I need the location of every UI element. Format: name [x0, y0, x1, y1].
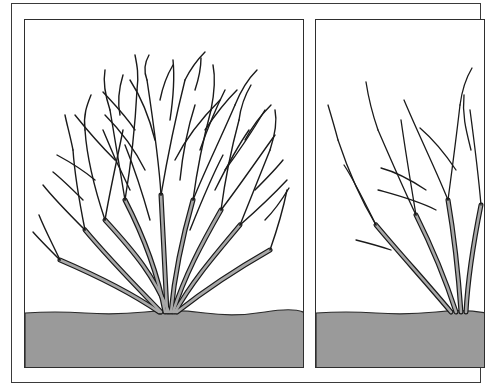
main-stems [60, 195, 270, 312]
ground [25, 310, 304, 368]
panel-after-pruning [315, 19, 485, 368]
ground [316, 311, 485, 368]
dense-shrub-illustration [25, 20, 304, 368]
main-stems [376, 200, 481, 312]
thinned-shrub-illustration [316, 20, 485, 368]
branch-twigs [328, 68, 481, 250]
panel-before-pruning [24, 19, 304, 368]
